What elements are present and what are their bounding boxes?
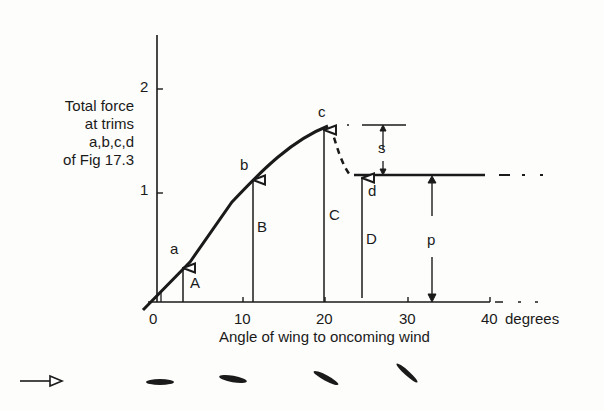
wing-10deg-icon [219, 373, 248, 384]
x-tick-40: 40 [481, 310, 498, 327]
force-A: A [190, 274, 200, 291]
force-C: C [329, 206, 340, 223]
point-c: c [318, 103, 326, 120]
force-B: B [257, 218, 267, 235]
wing-sections [146, 362, 419, 387]
x-tick-0: 0 [149, 310, 157, 327]
y-tick-2: 2 [140, 78, 148, 95]
x-tick-10: 10 [234, 310, 251, 327]
x-axis-label: Angle of wing to oncoming wind [219, 328, 430, 345]
force-curve [143, 126, 328, 310]
wing-30deg-icon [395, 362, 419, 384]
stall-drop-s: s [378, 139, 386, 156]
x-tick-30: 30 [399, 310, 416, 327]
wing-0deg-icon [146, 379, 174, 385]
stall-drop-dashed [331, 127, 350, 175]
wind-arrow-head [50, 376, 62, 386]
point-d: d [368, 182, 376, 199]
force-diagram [0, 0, 604, 411]
point-a: a [170, 240, 178, 257]
wing-20deg-icon [312, 369, 339, 387]
x-tick-20: 20 [316, 310, 333, 327]
y-tick-1: 1 [140, 181, 148, 198]
point-b: b [240, 156, 248, 173]
x-unit: degrees [505, 310, 559, 327]
force-D: D [366, 230, 377, 247]
post-stall-p: p [427, 231, 435, 248]
